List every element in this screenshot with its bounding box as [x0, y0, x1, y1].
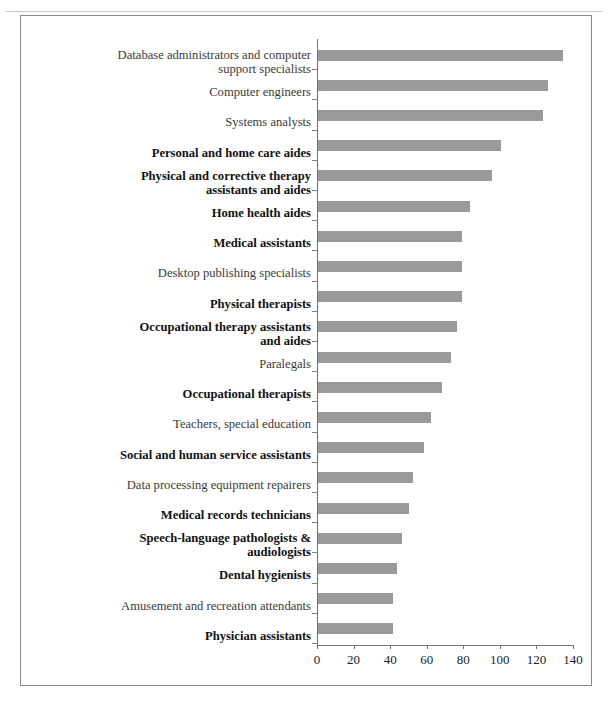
bar-row: Social and human service assistants	[21, 434, 593, 465]
y-axis-tick	[312, 311, 318, 312]
y-axis-tick	[312, 99, 318, 100]
category-label: Medical assistants	[43, 236, 311, 250]
x-axis-tick	[427, 645, 428, 649]
category-label: Personal and home care aides	[43, 146, 311, 160]
bar-row: Desktop publishing specialists	[21, 252, 593, 283]
y-axis-tick	[312, 190, 318, 191]
bar-row: Home health aides	[21, 192, 593, 223]
x-axis-tick	[390, 645, 391, 649]
bar-row: Data processing equipment repairers	[21, 464, 593, 495]
category-label: Social and human service assistants	[43, 448, 311, 462]
bar-row: Physician assistants	[21, 615, 593, 646]
bar	[318, 261, 462, 272]
y-axis-tick	[312, 552, 318, 553]
y-axis-tick	[312, 281, 318, 282]
x-axis-tick-label: 60	[407, 652, 447, 668]
y-axis-tick	[312, 371, 318, 372]
bar-row: Medical records technicians	[21, 494, 593, 525]
bar-row: Teachers, special education	[21, 403, 593, 434]
category-label: Data processing equipment repairers	[43, 478, 311, 492]
bar-row: Paralegals	[21, 343, 593, 374]
x-axis-tick	[354, 645, 355, 649]
bar	[318, 442, 424, 453]
bar-row: Dental hygienists	[21, 554, 593, 585]
bar	[318, 140, 501, 151]
bar-row: Systems analysts	[21, 101, 593, 132]
category-label: Physician assistants	[43, 629, 311, 643]
bar-row: Computer engineers	[21, 71, 593, 102]
bar	[318, 412, 431, 423]
y-axis-tick	[312, 643, 318, 644]
bar	[318, 291, 462, 302]
bar-chart-figure: Database administrators and computer sup…	[0, 0, 608, 705]
plot-area: Database administrators and computer sup…	[21, 16, 593, 687]
category-label: Paralegals	[43, 357, 311, 371]
bar	[318, 472, 413, 483]
x-axis-tick-label: 80	[443, 652, 483, 668]
bar	[318, 170, 492, 181]
y-axis-tick	[312, 492, 318, 493]
bar	[318, 231, 462, 242]
y-axis-tick	[312, 401, 318, 402]
x-axis-tick-label: 40	[370, 652, 410, 668]
scan-artifact-line	[6, 11, 602, 12]
bar	[318, 201, 470, 212]
bar-row: Occupational therapists	[21, 373, 593, 404]
bar	[318, 623, 393, 634]
bar-row: Physical therapists	[21, 283, 593, 314]
y-axis-tick	[312, 160, 318, 161]
x-axis-tick-label: 0	[297, 652, 337, 668]
y-axis-tick	[312, 69, 318, 70]
bar-row: Physical and corrective therapy assistan…	[21, 162, 593, 193]
category-label: Home health aides	[43, 206, 311, 220]
category-label: Teachers, special education	[43, 417, 311, 431]
bar-row: Occupational therapy assistants and aide…	[21, 313, 593, 344]
category-label: Physical therapists	[43, 297, 311, 311]
category-label: Occupational therapists	[43, 387, 311, 401]
y-axis-tick	[312, 432, 318, 433]
x-axis-tick-label: 140	[553, 652, 593, 668]
y-axis-tick	[312, 583, 318, 584]
y-axis-tick	[312, 130, 318, 131]
y-axis-tick	[312, 250, 318, 251]
y-axis-tick	[312, 522, 318, 523]
y-axis-tick	[312, 341, 318, 342]
x-axis-tick	[500, 645, 501, 649]
x-axis-tick-label: 120	[516, 652, 556, 668]
x-axis-tick-label: 100	[480, 652, 520, 668]
category-label: Desktop publishing specialists	[43, 266, 311, 280]
bar-row: Speech-language pathologists & audiologi…	[21, 524, 593, 555]
bar	[318, 563, 397, 574]
bar	[318, 593, 393, 604]
bar	[318, 533, 402, 544]
bar	[318, 321, 457, 332]
bar	[318, 503, 409, 514]
bar	[318, 110, 543, 121]
x-axis-tick	[317, 645, 318, 649]
x-axis-tick	[573, 645, 574, 649]
y-axis-tick	[312, 220, 318, 221]
category-label: Medical records technicians	[43, 508, 311, 522]
category-label: Amusement and recreation attendants	[43, 599, 311, 613]
category-label: Computer engineers	[43, 85, 311, 99]
y-axis-tick	[312, 462, 318, 463]
x-axis-tick	[536, 645, 537, 649]
bar-row: Database administrators and computer sup…	[21, 41, 593, 72]
bar	[318, 352, 451, 363]
bar-row: Personal and home care aides	[21, 132, 593, 163]
x-axis-tick-label: 20	[334, 652, 374, 668]
category-label: Systems analysts	[43, 115, 311, 129]
chart-frame: Database administrators and computer sup…	[20, 15, 592, 686]
bar	[318, 382, 442, 393]
bar-row: Amusement and recreation attendants	[21, 585, 593, 616]
category-label: Dental hygienists	[43, 568, 311, 582]
bar	[318, 50, 563, 61]
bar-row: Medical assistants	[21, 222, 593, 253]
x-axis-tick	[463, 645, 464, 649]
bar	[318, 80, 548, 91]
y-axis-tick	[312, 613, 318, 614]
